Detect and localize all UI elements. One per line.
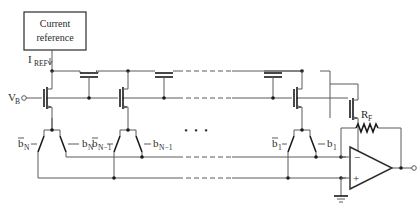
svg-text:F: F <box>368 114 372 123</box>
dac-circuit-schematic: Current reference I REF <box>0 0 420 216</box>
top-transistor-n <box>264 71 282 98</box>
switch-labels-1: b 1 b 1 <box>272 137 337 152</box>
current-reference-line2: reference <box>36 32 74 43</box>
switch-pair-n-1 <box>114 128 142 178</box>
svg-text:N: N <box>24 143 30 152</box>
iref-label: I REF <box>28 53 52 68</box>
minus-bus <box>66 155 346 159</box>
mirror-transistor-ref <box>44 71 52 118</box>
switch-pair-1 <box>288 128 316 178</box>
top-transistor-2 <box>155 73 173 98</box>
mirror-transistor-n <box>120 71 128 130</box>
svg-text:REF: REF <box>34 59 48 68</box>
plus-bus <box>38 176 360 180</box>
current-reference-line1: Current <box>40 18 71 29</box>
svg-text:B: B <box>15 97 20 106</box>
opamp: − + <box>341 147 392 189</box>
svg-text:+: + <box>353 172 359 184</box>
top-transistor-1 <box>80 70 98 98</box>
switch-labels-n1: b N−1 b N−1 <box>92 137 173 152</box>
ellipsis: • • • <box>184 125 210 136</box>
ground-icon <box>334 178 348 202</box>
svg-text:N−1: N−1 <box>159 143 173 152</box>
svg-text:I: I <box>28 53 32 65</box>
svg-text:1: 1 <box>278 143 282 152</box>
output-vo <box>392 166 416 171</box>
mirror-transistor-1 <box>294 71 302 130</box>
svg-text:−: − <box>354 151 360 163</box>
switch-pair-n <box>38 118 66 178</box>
switch-labels: b N b N b <box>18 137 94 152</box>
svg-text:1: 1 <box>333 143 337 152</box>
current-reference-block: Current reference <box>24 12 86 50</box>
